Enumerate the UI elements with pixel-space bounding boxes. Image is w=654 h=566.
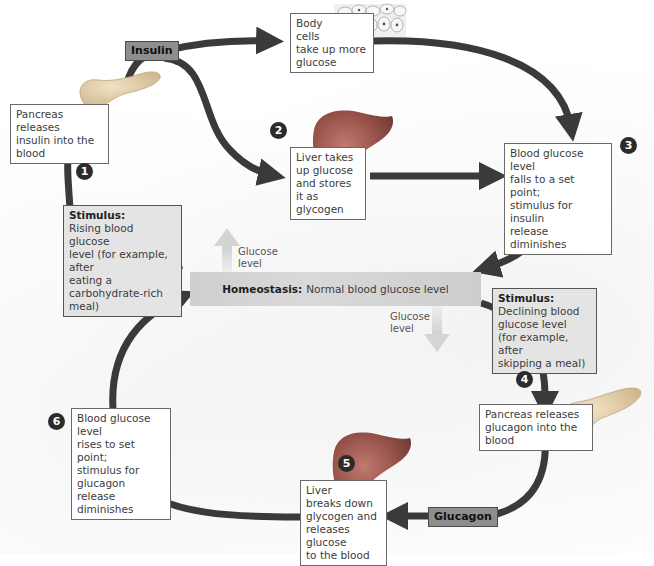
pancreas-illustration (80, 72, 160, 108)
glucose-falls-box: Blood glucose level falls to a set point… (504, 143, 612, 255)
step-5-badge: 5 (338, 455, 355, 472)
homeostasis-bar: Homeostasis: Normal blood glucose level (190, 272, 481, 306)
homeostasis-label: Homeostasis: (222, 283, 302, 295)
stimulus-rising-box: Stimulus: Rising blood glucose level (fo… (63, 205, 182, 317)
glucose-rises-box: Blood glucose level rises to set point; … (71, 408, 171, 520)
step-2-badge: 2 (270, 122, 287, 139)
step-3-badge: 3 (620, 137, 637, 154)
step-1-badge: 1 (76, 163, 93, 180)
step-4-badge: 4 (516, 371, 533, 388)
insulin-label: Insulin (125, 41, 179, 61)
glucose-up-label: Glucose level (238, 246, 278, 270)
stimulus-declining-box: Stimulus: Declining blood glucose level … (492, 288, 597, 374)
glucose-up-arrow (214, 228, 240, 272)
step-6-badge: 6 (48, 413, 65, 430)
liver-breaks-glycogen-box: Liver breaks down glycogen and releases … (300, 480, 387, 566)
pancreas-releases-insulin-box: Pancreas releases insulin into the blood (10, 104, 109, 164)
body-cells-box: Body cells take up more glucose (290, 13, 374, 73)
pancreas-releases-glucagon-box: Pancreas releases glucagon into the bloo… (479, 404, 593, 451)
glucose-down-label: Glucose level (390, 311, 430, 335)
liver-stores-glycogen-box: Liver takes up glucose and stores it as … (290, 147, 366, 220)
homeostasis-text: Normal blood glucose level (306, 283, 448, 295)
glucagon-label: Glucagon (428, 507, 498, 527)
